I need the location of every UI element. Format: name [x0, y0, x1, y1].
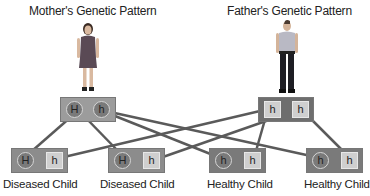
father-allele-1: h: [264, 101, 281, 118]
child-4-genotype-box: h h: [306, 148, 363, 173]
father-allele-2: h: [292, 101, 309, 118]
child-1-paternal-allele: h: [46, 152, 63, 169]
child-2-label: Diseased Child: [100, 178, 175, 190]
father-genotype-box: h h: [258, 97, 314, 122]
child-2-genotype-box: H h: [108, 148, 165, 173]
child-3-paternal-allele: h: [244, 152, 261, 169]
mother-genotype-box: H h: [60, 97, 116, 122]
child-4-label: Healthy Child: [304, 178, 370, 190]
child-3-genotype-box: h h: [209, 148, 266, 173]
mother-allele-1: H: [66, 101, 83, 118]
child-3-label: Healthy Child: [207, 178, 273, 190]
child-2-paternal-allele: h: [143, 152, 160, 169]
child-1-maternal-allele: H: [17, 152, 34, 169]
child-1-label: Diseased Child: [3, 178, 78, 190]
mother-allele-2: h: [93, 101, 110, 118]
child-3-maternal-allele: h: [215, 152, 232, 169]
child-2-maternal-allele: H: [114, 152, 131, 169]
child-4-paternal-allele: h: [341, 152, 358, 169]
child-4-maternal-allele: h: [312, 152, 329, 169]
child-1-genotype-box: H h: [11, 148, 68, 173]
